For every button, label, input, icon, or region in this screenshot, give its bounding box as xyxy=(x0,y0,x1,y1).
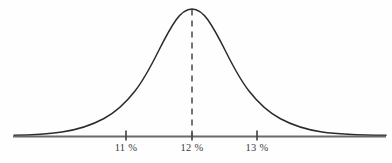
normal-curve-path xyxy=(14,9,386,135)
x-tick-label-12-percent: 12 % xyxy=(180,142,203,153)
x-tick-label-11-percent: 11 % xyxy=(115,142,138,153)
distribution-chart-canvas xyxy=(0,0,392,163)
bell-curve-figure: 11 % 12 % 13 % xyxy=(0,0,392,163)
x-tick-label-13-percent: 13 % xyxy=(245,142,268,153)
